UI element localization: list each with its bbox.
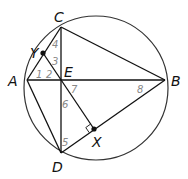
segment-DA xyxy=(27,80,61,153)
angle-label-4: 4 xyxy=(52,39,58,50)
point-label-B: B xyxy=(171,73,181,89)
point-X-dot xyxy=(91,126,96,131)
angle-labels: 12345678 xyxy=(36,39,143,148)
point-Y-dot xyxy=(40,50,45,55)
point-label-D: D xyxy=(52,159,63,175)
angle-label-6: 6 xyxy=(62,99,68,110)
point-label-C: C xyxy=(54,9,64,25)
right-angle-marker xyxy=(86,124,91,133)
point-label-A: A xyxy=(7,73,18,89)
angle-label-5: 5 xyxy=(62,137,68,148)
segment-CB xyxy=(61,27,165,80)
point-label-Y: Y xyxy=(30,45,40,61)
angle-label-8: 8 xyxy=(137,84,143,95)
angle-label-1: 1 xyxy=(36,69,42,80)
angle-label-2: 2 xyxy=(46,69,52,80)
angle-label-3: 3 xyxy=(52,56,58,67)
point-label-X: X xyxy=(91,134,102,150)
point-label-E: E xyxy=(64,64,73,80)
geometry-diagram: CAEBDYX 12345678 xyxy=(0,0,188,179)
angle-label-7: 7 xyxy=(71,84,78,95)
